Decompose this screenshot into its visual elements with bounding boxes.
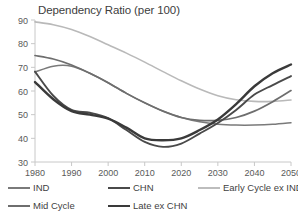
series-line-chn xyxy=(35,72,291,147)
x-tick-label-2000: 2000 xyxy=(98,168,118,178)
y-tick-label-90: 90 xyxy=(18,16,28,26)
series-line-late-ex-chn xyxy=(35,64,291,140)
legend-label-early-cycle-ex-ind: Early Cycle ex IND xyxy=(223,183,298,193)
y-tick-label-40: 40 xyxy=(18,134,28,144)
legend-item-early-cycle-ex-ind[interactable]: Early Cycle ex IND xyxy=(198,183,298,193)
y-tick-label-80: 80 xyxy=(18,39,28,49)
x-tick-label-2050: 2050 xyxy=(281,168,298,178)
y-tick-label-70: 70 xyxy=(18,63,28,73)
legend-swatch-chn xyxy=(108,187,130,189)
legend-item-chn[interactable]: CHN xyxy=(108,183,154,193)
y-tick-label-50: 50 xyxy=(18,110,28,120)
legend-item-ind[interactable]: IND xyxy=(8,183,49,193)
tick-label-layer: 9080706050403019801990200020102020203020… xyxy=(18,16,298,179)
dependency-ratio-chart: Dependency Ratio (per 100) 9080706050403… xyxy=(0,0,298,222)
x-tick-label-2020: 2020 xyxy=(171,168,191,178)
legend-item-mid-cycle[interactable]: Mid Cycle xyxy=(8,201,75,211)
x-tick-label-1990: 1990 xyxy=(62,168,82,178)
plot-area: 9080706050403019801990200020102020203020… xyxy=(0,0,298,180)
legend-label-chn: CHN xyxy=(133,183,154,193)
series-line-early-cycle-ex-ind xyxy=(35,22,291,102)
chart-legend: IND CHN Early Cycle ex IND Mid Cycle Lat… xyxy=(0,180,298,222)
series-layer xyxy=(35,22,291,147)
y-tick-label-30: 30 xyxy=(18,158,28,168)
x-tick-label-2040: 2040 xyxy=(244,168,264,178)
y-tick-label-60: 60 xyxy=(18,87,28,97)
x-tick-label-2030: 2030 xyxy=(208,168,228,178)
legend-item-late-ex-chn[interactable]: Late ex CHN xyxy=(108,201,187,211)
x-tick-label-2010: 2010 xyxy=(135,168,155,178)
axis-layer xyxy=(31,20,291,166)
legend-label-ind: IND xyxy=(33,183,49,193)
legend-label-late-ex-chn: Late ex CHN xyxy=(133,201,187,211)
legend-label-mid-cycle: Mid Cycle xyxy=(33,201,75,211)
legend-swatch-ind xyxy=(8,187,30,189)
x-tick-label-1980: 1980 xyxy=(25,168,45,178)
legend-swatch-late-ex-chn xyxy=(108,205,130,208)
legend-swatch-mid-cycle xyxy=(8,205,30,207)
legend-swatch-early-cycle-ex-ind xyxy=(198,187,220,189)
